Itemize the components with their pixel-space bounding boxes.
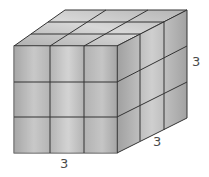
depth-label: 3 [153, 135, 161, 148]
prism-drawing [0, 0, 209, 177]
width-label: 3 [60, 157, 68, 170]
front-cells [14, 46, 117, 153]
height-label: 3 [192, 55, 200, 68]
cube-diagram: 3 3 3 [0, 0, 209, 177]
